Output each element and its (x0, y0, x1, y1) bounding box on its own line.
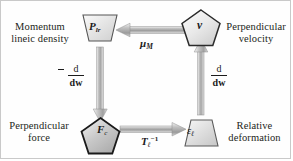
edge-label-mu-subscript: M (146, 42, 153, 51)
label-relative-deformation: Relative deformation (217, 120, 292, 144)
node-symbol-force-subscript: c (104, 129, 107, 137)
edge-top-arrow (116, 23, 185, 37)
edge-label-t-superscript: −1 (151, 135, 159, 143)
label-force-line1: Perpendicular (9, 120, 69, 131)
node-symbol-deformation-subscript: ℓ (191, 130, 194, 138)
label-deformation-line2: deformation (228, 132, 280, 143)
frac-left-numerator: d (59, 63, 93, 74)
frac-left-denominator: dw (59, 77, 93, 88)
edge-label-mu: μM (140, 37, 153, 51)
node-symbol-force: Fc (97, 123, 107, 137)
edge-label-t-base: T (141, 135, 148, 147)
label-deformation-line1: Relative (237, 120, 273, 131)
edge-left-arrow (93, 47, 107, 122)
frac-right-numerator: d (204, 63, 234, 74)
node-symbol-momentum: Plr (89, 20, 100, 34)
frac-right-bar (211, 75, 227, 76)
minus-sign-icon (58, 69, 64, 70)
label-velocity-line1: Perpendicular (226, 21, 286, 32)
label-momentum-line2: lineic density (11, 33, 69, 44)
edge-label-d-dw: d dw (204, 63, 234, 88)
frac-left-bar (68, 75, 84, 76)
edge-bottom-arrow (120, 123, 186, 137)
label-momentum-line1: Momentum (15, 21, 65, 32)
label-perpendicular-force: Perpendicular force (1, 120, 77, 144)
frac-right-denominator: dw (204, 77, 234, 88)
node-symbol-velocity-base: v (197, 19, 202, 31)
label-velocity-line2: velocity (239, 33, 274, 44)
edge-label-negative-d-dw: d dw (59, 63, 93, 88)
label-force-line2: force (28, 132, 50, 143)
edge-label-t-inverse: Tℓ−1 (141, 135, 158, 149)
label-perpendicular-velocity: Perpendicular velocity (220, 21, 292, 45)
node-symbol-deformation: εℓ (187, 125, 194, 138)
diagram-figure: Momentum lineic density Perpendicular ve… (0, 0, 291, 159)
node-symbol-momentum-subscript: lr (96, 26, 101, 34)
node-symbol-velocity: v (197, 19, 202, 31)
node-symbol-momentum-base: P (89, 20, 96, 32)
label-momentum-lineic-density: Momentum lineic density (3, 21, 77, 45)
